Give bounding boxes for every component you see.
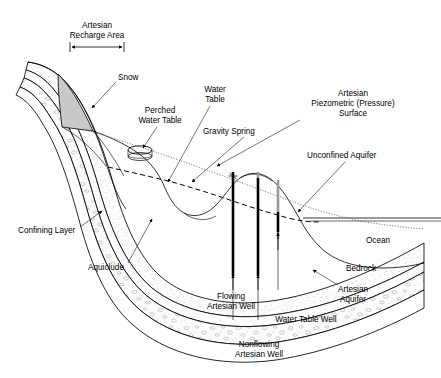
groundwater-cross-section-figure: Artesian Recharge Area Snow Perched Wate… — [0, 0, 441, 378]
flowing-well-label-line2: Artesian Well — [207, 302, 255, 311]
confining-layer-label: Confining Layer — [18, 226, 76, 235]
nonflowing-well-label-line1: Nonflowing — [239, 340, 280, 349]
unconfined-aquifer-label: Unconfined Aquifer — [307, 151, 376, 160]
artesian-aquifer-label-line1: Artesian — [338, 285, 368, 294]
recharge-area-label-line1: Artesian — [82, 21, 112, 30]
bedrock-label: Bedrock — [346, 264, 377, 273]
recharge-area-label-line2: Recharge Area — [70, 31, 125, 40]
gravity-spring-label: Gravity Spring — [203, 127, 255, 136]
gravity-spring-pool — [184, 213, 216, 220]
piezometric-label-line2: Piezometric (Pressure) — [311, 99, 395, 108]
perched-leader — [143, 127, 157, 148]
water-table-line — [108, 167, 320, 222]
perched-label-line1: Perched — [145, 106, 176, 115]
aquiclude-label: Aquiclude — [88, 263, 124, 272]
unconfined-aquifer-leader — [298, 162, 345, 212]
artesian-aquifer-label-line2: Aquifer — [340, 295, 366, 304]
snow-label: Snow — [118, 73, 139, 82]
perched-label-line2: Water Table — [138, 116, 182, 125]
water-table-label-line1: Water — [204, 85, 226, 94]
ocean-label: Ocean — [366, 236, 391, 245]
ocean — [303, 218, 441, 221]
perched-water-table-lens — [128, 146, 152, 161]
snow-leader — [92, 82, 116, 108]
piezometric-label-line3: Surface — [339, 109, 368, 118]
artesian-aquifer-leader — [313, 270, 338, 285]
nonflowing-well-label-line2: Artesian Well — [235, 350, 283, 359]
flowing-well-label-line1: Flowing — [217, 292, 246, 301]
water-table-well-label: Water Table Well — [275, 315, 336, 324]
gravity-spring-leader — [192, 137, 244, 182]
recharge-area-dimension-bar — [70, 42, 124, 52]
snow-patch — [58, 74, 93, 131]
water-table-label-line2: Table — [205, 95, 225, 104]
piezometric-label-line1: Artesian — [338, 89, 368, 98]
